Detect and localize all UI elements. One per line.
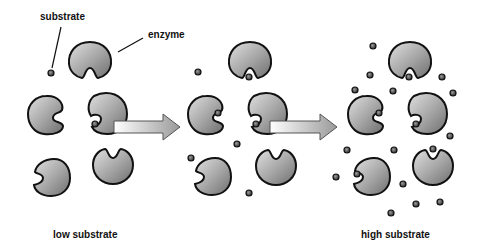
bound-substrate <box>253 121 259 127</box>
enzyme-molecule <box>413 150 453 185</box>
high-substrate-label: high substrate <box>361 229 430 240</box>
substrate-molecule <box>48 70 54 76</box>
enzyme-leader-line <box>118 38 143 52</box>
enzyme-molecule <box>389 42 431 78</box>
substrate-molecule <box>390 88 396 94</box>
substrate-molecule <box>400 181 406 187</box>
substrate-molecule <box>413 201 419 207</box>
enzyme-molecule <box>409 93 447 134</box>
substrate-molecule <box>450 90 456 96</box>
enzyme-molecule <box>256 150 296 185</box>
enzyme-molecule <box>69 42 111 78</box>
substrate-molecule <box>333 174 339 180</box>
substrate-molecule <box>447 133 453 139</box>
bound-substrate <box>406 74 412 80</box>
substrate-molecule <box>437 199 443 205</box>
panel-low-substrate <box>28 27 143 196</box>
substrate-molecule <box>439 74 445 80</box>
substrate-molecule <box>352 87 358 93</box>
bound-substrate <box>92 121 98 127</box>
substrate-molecule <box>388 210 394 216</box>
bound-substrate <box>430 146 436 152</box>
low-substrate-label: low substrate <box>53 229 117 240</box>
enzyme-label: enzyme <box>148 29 185 40</box>
bound-substrate <box>376 110 382 116</box>
enzyme-molecule <box>229 42 271 78</box>
substrate-molecule <box>188 155 194 161</box>
substrate-molecule <box>367 72 373 78</box>
bound-substrate <box>413 121 419 127</box>
panel-high-substrate <box>333 42 456 216</box>
substrate-molecule <box>391 147 397 153</box>
enzyme-molecule <box>93 149 133 184</box>
substrate-molecule <box>234 141 240 147</box>
enzyme-molecule <box>34 159 70 196</box>
substrate-molecule <box>195 69 201 75</box>
bound-substrate <box>246 74 252 80</box>
enzyme-molecule <box>28 96 63 134</box>
bound-substrate <box>354 171 360 177</box>
substrate-molecule <box>344 147 350 153</box>
enzyme-substrate-diagram <box>0 0 481 249</box>
substrate-molecule <box>370 43 376 49</box>
enzyme-molecule <box>195 158 231 195</box>
substrate-leader-line <box>52 27 61 68</box>
substrate-molecule <box>246 190 252 196</box>
panel-medium-substrate <box>188 42 296 196</box>
bound-substrate <box>215 110 221 116</box>
substrate-label: substrate <box>40 11 85 22</box>
